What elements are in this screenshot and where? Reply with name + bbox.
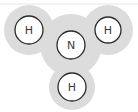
atom-label: H xyxy=(68,81,76,94)
atom-label: N xyxy=(67,39,75,52)
atom-n-center: N xyxy=(57,31,85,59)
atom-label: H xyxy=(104,24,112,37)
atom-h-left: H xyxy=(15,16,43,44)
atom-h-bottom: H xyxy=(58,73,86,101)
atom-label: H xyxy=(25,24,33,37)
atom-h-right: H xyxy=(95,17,121,43)
ammonia-molecule-diagram: H N H H xyxy=(0,0,138,112)
